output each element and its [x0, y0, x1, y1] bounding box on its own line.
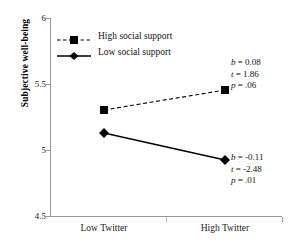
annotation-low-social-support: b = -0.11 t = -2.48 p = .01 [231, 152, 264, 187]
series-line-low-social-support [104, 133, 225, 160]
legend-label-high-social-support: High social support [98, 31, 172, 41]
data-point-low-low-twitter [99, 128, 109, 138]
square-marker-icon [57, 31, 91, 41]
annotation-high-t: t = 1.86 [231, 69, 261, 81]
chart-container: Subjective well-being 6 5.5 5 4.5 Low Tw… [0, 0, 299, 249]
annotation-low-b: b = -0.11 [231, 152, 264, 164]
annotation-high-social-support: b = 0.08 t = 1.86 p = .06 [231, 57, 261, 92]
legend-label-low-social-support: Low social support [98, 47, 171, 57]
legend: High social support Low social support [57, 26, 172, 58]
data-point-low-high-twitter [220, 155, 230, 165]
series-line-high-social-support [104, 90, 225, 110]
data-point-high-high-twitter [221, 86, 229, 94]
annotation-high-p: p = .06 [231, 80, 261, 92]
legend-item-low-social-support: Low social support [57, 42, 172, 58]
legend-item-high-social-support: High social support [57, 26, 172, 42]
diamond-marker-icon [57, 47, 91, 57]
data-point-high-low-twitter [100, 106, 108, 114]
annotation-low-t: t = -2.48 [231, 164, 264, 176]
annotation-low-p: p = .01 [231, 175, 264, 187]
annotation-high-b: b = 0.08 [231, 57, 261, 69]
